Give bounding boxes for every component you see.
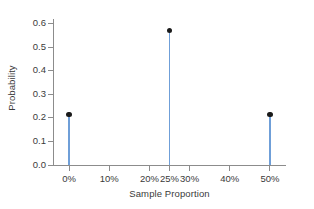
y-axis-tick [48, 70, 53, 71]
y-axis-spine [53, 19, 54, 166]
y-axis-tick-label: 0.4 [2, 64, 46, 75]
x-axis-tick-label-wrap: 10% [89, 173, 129, 186]
y-axis-tick-label-wrap: 0.0 [0, 159, 46, 171]
y-axis-tick-label-wrap: 0.5 [0, 41, 46, 53]
x-axis-tick-label: 30% [170, 173, 210, 184]
x-axis-tick [149, 166, 150, 171]
x-axis-tick [269, 166, 270, 171]
y-axis-tick-label-wrap: 0.4 [0, 64, 46, 76]
y-axis-tick-label-wrap: 0.1 [0, 135, 46, 147]
y-axis-tick-label: 0.5 [2, 41, 46, 52]
x-axis-title: Sample Proportion [53, 188, 286, 199]
stem-plot-figure: Probability 0.00.10.20.30.40.50.6 0%10%2… [0, 0, 314, 209]
x-axis-tick-label: 40% [210, 173, 250, 184]
y-axis-tick-label: 0.1 [2, 135, 46, 146]
data-point-marker [167, 28, 172, 33]
stem-line [169, 31, 171, 165]
y-axis-tick [48, 165, 53, 166]
x-axis-tick-label: 50% [250, 173, 290, 184]
y-axis-tick-label: 0.6 [2, 17, 46, 28]
x-axis-tick-label-wrap: 40% [210, 173, 250, 186]
x-axis-tick-label-wrap: 50% [250, 173, 290, 186]
y-axis-tick-label: 0.3 [2, 88, 46, 99]
stem-line [68, 114, 70, 165]
y-axis-tick-label: 0.2 [2, 111, 46, 122]
data-point-marker [267, 112, 272, 117]
x-axis-tick-label-wrap: 30% [170, 173, 210, 186]
y-axis-tick-label: 0.0 [2, 159, 46, 170]
y-axis-tick [48, 94, 53, 95]
y-axis-tick [48, 47, 53, 48]
y-axis-tick-label-wrap: 0.6 [0, 17, 46, 29]
y-axis-tick-label-wrap: 0.2 [0, 111, 46, 123]
y-axis-tick [48, 23, 53, 24]
x-axis-tick-label-wrap: 0% [49, 173, 89, 186]
x-axis-tick-label: 10% [89, 173, 129, 184]
x-axis-tick [109, 166, 110, 171]
x-axis-tick [189, 166, 190, 171]
stem-line [269, 114, 271, 165]
y-axis-tick [48, 141, 53, 142]
x-axis-tick-label: 0% [49, 173, 89, 184]
y-axis-tick [48, 117, 53, 118]
data-point-marker [66, 112, 71, 117]
x-axis-tick [229, 166, 230, 171]
y-axis-tick-label-wrap: 0.3 [0, 88, 46, 100]
x-axis-tick [169, 166, 170, 171]
x-axis-tick [69, 166, 70, 171]
